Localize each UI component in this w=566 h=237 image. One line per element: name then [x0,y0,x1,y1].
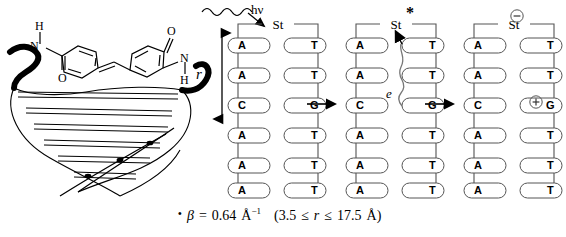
bond-vinyl-c [114,62,130,70]
less-equal-2: ≤ [324,208,332,223]
atom-label-n-right: N [180,51,189,65]
base-letter-right-2: T [311,69,318,81]
base-letter-right-6: T [311,184,318,196]
base-letter-left-3: C [238,99,246,111]
atom-label-o-left: O [58,71,67,85]
base-letter-left-4: A [474,129,482,141]
base-letter-right-1: T [429,39,436,51]
bond-n-c-left [46,48,62,56]
base-letter-left-6: A [238,184,246,196]
base-letter-right-4: T [547,129,554,141]
range-close-paren: ) [377,208,382,223]
base-letter-right-5: T [311,159,318,171]
stilbene-dna-hairpin-illustration: H N O O N H [0,0,215,205]
beta-exponent: −1 [251,206,261,216]
base-letter-left-1: A [474,39,482,51]
base-letter-left-2: A [238,69,246,81]
base-letter-right-5: T [429,159,436,171]
atom-label-h-right: H [180,73,189,87]
base-letter-left-4: A [356,129,364,141]
base-letter-left-3: C [474,99,482,111]
range-unit: Å [367,208,377,223]
atom-label-h-left: H [35,19,44,33]
base-letter-right-4: T [311,129,318,141]
photon-label-hv: hν [251,2,263,18]
reaction-arrow-2 [424,95,456,113]
atom-labels: H N O O N H [30,19,189,87]
anion-charge-symbol [509,8,525,28]
base-letter-right-1: T [547,39,554,51]
base-letter-right-1: T [311,39,318,51]
cation-charge-symbol [528,94,544,114]
electron-label: e [386,86,392,102]
base-letter-left-3: C [356,99,364,111]
base-letter-left-6: A [474,184,482,196]
base-letter-right-6: T [429,184,436,196]
bond-c-o-right-b [167,39,173,53]
base-letter-left-1: A [356,39,364,51]
less-equal-1: ≤ [301,208,309,223]
base-letter-left-2: A [474,69,482,81]
base-letter-left-2: A [356,69,364,81]
dna-double-helix [11,87,191,196]
equation-bullet: • [178,207,182,221]
range-min: 3.5 [279,208,297,223]
bond-c-o-right-a [164,38,170,52]
range-max: 17.5 [337,208,362,223]
base-letter-right-2: T [429,69,436,81]
base-letter-left-5: A [356,159,364,171]
equals-sign: = [199,208,207,223]
distance-label-r: r [196,66,202,83]
excited-state-asterisk: * [406,4,414,22]
benzene-ring-left [62,46,98,78]
atom-label-o-right: O [167,24,176,38]
base-letter-right-5: T [547,159,554,171]
chromophore-label-st-excited: St [344,18,448,32]
dna-ladder-charge-separated: St A T A T C G A T A T A T [462,18,566,204]
beta-value: 0.64 [212,208,237,223]
reaction-arrow-1 [306,95,338,113]
benzene-ring-right [130,46,164,77]
base-letter-right-4: T [429,129,436,141]
base-letter-right-3: G [546,99,555,111]
chromophore-label-st-initial: St [226,18,330,32]
base-letter-left-4: A [238,129,246,141]
beta-equation: •β=0.64Å−1(3.5≤r≤17.5Å) [0,206,559,224]
base-letter-left-5: A [238,159,246,171]
base-letter-left-5: A [474,159,482,171]
base-letter-left-6: A [356,184,364,196]
hairpin-svg: H N O O N H [0,0,215,205]
beta-unit: Å [241,208,251,223]
base-letter-right-2: T [547,69,554,81]
bond-c-n-right [163,62,178,68]
base-letter-right-6: T [547,184,554,196]
range-variable: r [314,208,319,223]
base-letter-left-1: A [238,39,246,51]
beta-symbol: β [187,208,194,223]
